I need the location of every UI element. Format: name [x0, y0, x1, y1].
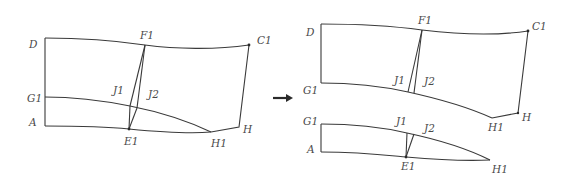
- label-J2: J2: [422, 75, 435, 87]
- curve-G1-H1: [321, 124, 490, 160]
- diagram-canvas: D F1 C1 G1 J1 J2 A E1 H1 H D F1 C1 G1 J1…: [0, 0, 565, 185]
- point-H: [517, 112, 519, 114]
- right-upper-panel: D F1 C1 G1 J1 J2 H1 H: [303, 14, 547, 133]
- label-J2: J2: [422, 122, 435, 134]
- label-J1: J1: [111, 84, 124, 96]
- label-H: H: [242, 123, 253, 135]
- point-C1: [248, 44, 251, 47]
- label-G1: G1: [303, 84, 318, 96]
- curve-G1-H1: [321, 83, 492, 118]
- point-C1: [527, 30, 530, 33]
- edge-C1-H-H1: [492, 31, 528, 118]
- label-F1: F1: [417, 14, 432, 26]
- label-D: D: [28, 38, 38, 50]
- label-H1: H1: [210, 137, 227, 149]
- left-original-panel: D F1 C1 G1 J1 J2 A E1 H1 H: [27, 29, 272, 149]
- label-C1: C1: [257, 34, 272, 46]
- label-F1: F1: [139, 29, 154, 41]
- label-H: H: [521, 111, 532, 123]
- label-J1: J1: [394, 115, 407, 127]
- label-G1: G1: [27, 92, 42, 104]
- pattern-split-diagram: D F1 C1 G1 J1 J2 A E1 H1 H D F1 C1 G1 J1…: [0, 0, 565, 185]
- label-D: D: [305, 26, 315, 38]
- label-J1: J1: [392, 74, 405, 86]
- label-C1: C1: [532, 20, 547, 32]
- label-A: A: [306, 143, 315, 155]
- curve-G1-H1: [45, 97, 211, 132]
- label-E1: E1: [123, 135, 138, 147]
- right-lower-panel: G1 J1 J2 A E1 H1: [303, 115, 508, 175]
- label-A: A: [28, 116, 37, 128]
- label-E1: E1: [400, 160, 415, 172]
- transform-arrow-icon: [273, 94, 293, 102]
- label-J2: J2: [146, 88, 159, 100]
- label-H1: H1: [487, 121, 504, 133]
- dart-F1-J2: [137, 45, 145, 108]
- edge-C1-H-H1: [211, 45, 249, 132]
- point-E1: [128, 128, 131, 131]
- label-G1: G1: [303, 115, 318, 127]
- label-H1: H1: [491, 163, 508, 175]
- point-E1: [405, 156, 408, 159]
- dart-F1-J1: [130, 45, 145, 106]
